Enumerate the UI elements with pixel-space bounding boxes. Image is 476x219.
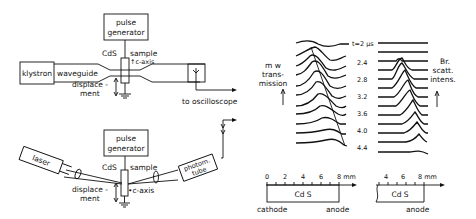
- br-tick-4: 4: [384, 173, 388, 181]
- cds-label-2: CdS: [102, 163, 117, 172]
- sample-label-2: sample: [130, 163, 158, 172]
- mw-ylabel-3: mission: [259, 79, 288, 88]
- anode-label-2: anode: [406, 205, 430, 214]
- br-tick-6: 6: [401, 173, 405, 181]
- pulse-generator-label-2: generator: [107, 28, 145, 37]
- klystron-label: klystron: [22, 69, 52, 78]
- bottom-setup: pulse generator CdS sample •c-axis laser…: [19, 118, 237, 207]
- pulse-generator-label-1b: pulse: [116, 134, 137, 143]
- time-label-1: 2.4: [357, 59, 367, 67]
- cds-sample-label: Cd S: [294, 190, 311, 199]
- pulse-generator-label-2b: generator: [107, 144, 145, 153]
- up-arrow-icon-2: [435, 91, 439, 107]
- time-label-4: 3.6: [357, 110, 367, 118]
- sample-rod: [121, 58, 129, 83]
- br-ylabel-3: intens.: [430, 75, 455, 84]
- diode-icon: [193, 68, 199, 76]
- scale-tick-0: 0: [265, 173, 269, 181]
- scale-tick-4: 4: [301, 173, 305, 181]
- oscilloscope-label: to oscilloscope: [182, 97, 238, 106]
- br-tick-8: 8 mm: [418, 173, 437, 181]
- mw-transmission-panel: m w trans- mission t=2 µs 2.4 2.8 3.2 3.…: [257, 40, 374, 214]
- up-arrow-icon: [281, 89, 285, 105]
- sample-rod-2: [121, 170, 128, 196]
- time-label-2: 2.8: [357, 76, 367, 84]
- anode-label: anode: [326, 205, 350, 214]
- top-setup: pulse generator CdS sample ↑c-axis klyst…: [20, 14, 238, 106]
- cds-sample-label-2: Cd S: [391, 190, 408, 199]
- cathode-label: cathode: [257, 205, 288, 214]
- c-axis-label-2: •c-axis: [128, 186, 154, 195]
- time-label-5: 4.0: [357, 127, 367, 135]
- displacement-label-1b: displace -: [72, 185, 108, 194]
- lens-icon: [74, 168, 82, 179]
- br-waveforms: [378, 43, 428, 154]
- sample-label: sample: [130, 49, 158, 58]
- experiment-diagram: pulse generator CdS sample ↑c-axis klyst…: [0, 0, 476, 219]
- ground-icon-2: [119, 203, 130, 207]
- scale-tick-8: 8 mm: [337, 173, 356, 181]
- displacement-label-1: displace -: [72, 80, 108, 89]
- br-scale: 4 6 8 mm Cd S anode: [376, 173, 445, 214]
- ground-icon: [119, 94, 131, 98]
- displacement-arrow-icon: [114, 78, 118, 96]
- mw-ylabel-2: trans-: [262, 70, 284, 79]
- br-ylabel-1: Br.: [440, 57, 450, 66]
- brillouin-panel: Br. scatt. intens. 4 6 8 mm Cd S anode: [376, 43, 456, 214]
- br-ylabel-2: scatt.: [433, 66, 454, 75]
- time-label-6: 4.4: [357, 144, 367, 152]
- displacement-label-2: ment: [80, 89, 100, 98]
- time-label-3: 3.2: [357, 93, 367, 101]
- pulse-generator-label-1: pulse: [116, 18, 137, 27]
- scale-tick-2: 2: [283, 173, 287, 181]
- mw-scale: 0 2 4 6 8 mm Cd S cathode anode: [257, 173, 357, 214]
- waveguide-label: waveguide: [57, 69, 98, 78]
- displacement-arrow-icon-2: [114, 183, 118, 202]
- time-label-0: t=2 µs: [352, 40, 374, 48]
- arrow-icon: [232, 88, 237, 92]
- scale-tick-6: 6: [319, 173, 323, 181]
- mw-waveforms: [296, 41, 349, 146]
- displacement-label-2b: ment: [80, 194, 100, 203]
- cds-label: CdS: [102, 49, 117, 58]
- mw-ylabel-1: m w: [265, 61, 281, 70]
